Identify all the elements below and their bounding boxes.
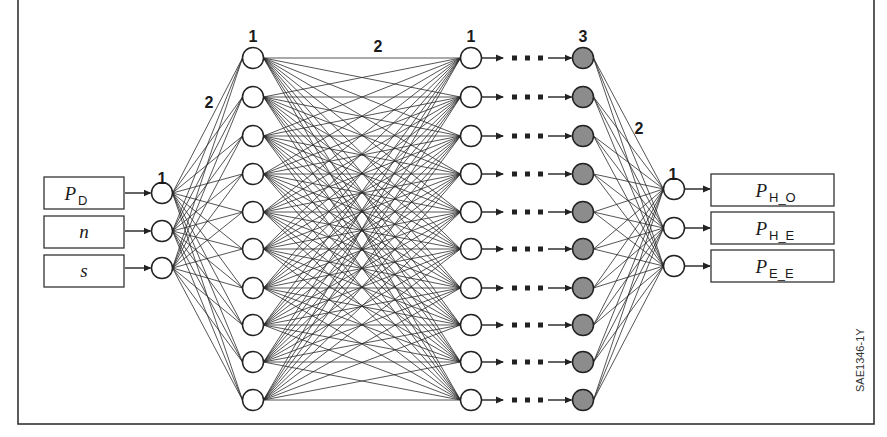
svg-text:P: P [754, 218, 767, 239]
ellipsis-dot [525, 56, 530, 61]
output-box-pee: P E_E [711, 250, 834, 282]
edge [173, 174, 243, 268]
ellipsis-dot [538, 134, 543, 139]
ellipsis-dot [538, 95, 543, 100]
hidden2-node [461, 126, 482, 147]
hidden2-node [461, 87, 482, 108]
hiddenlast-node [573, 87, 594, 108]
input-layer-label: 1 [158, 170, 167, 187]
connection-edges [173, 58, 664, 400]
ellipsis-dot [512, 56, 517, 61]
svg-text:E_E: E_E [769, 266, 794, 281]
hidden2-node [461, 202, 482, 223]
ellipsis-dot [525, 210, 530, 215]
hiddenlast-node [573, 48, 594, 69]
hidden2-layer-label: 1 [467, 28, 476, 45]
edge [594, 97, 664, 189]
output-layer-label: 1 [669, 166, 678, 183]
hiddenlast-node [573, 315, 594, 336]
ellipsis-dot [538, 210, 543, 215]
ellipsis-dot [538, 398, 543, 403]
svg-text:s: s [80, 260, 87, 281]
svg-text:P: P [63, 183, 76, 204]
ellipsis-dot [538, 360, 543, 365]
hiddenlast-node [573, 164, 594, 185]
output-node [664, 256, 685, 277]
ellipsis-dot [525, 398, 530, 403]
hiddenlast-node [573, 126, 594, 147]
svg-text:P: P [754, 180, 767, 201]
ellipsis-dot [512, 323, 517, 328]
edge [173, 249, 243, 268]
neural-network-diagram: P D n s P H_O P H_E P E_E 1 1 1 3 1 2 2 … [0, 0, 887, 437]
edge [173, 268, 243, 362]
hidden1-node [243, 48, 264, 69]
ellipsis-dot [538, 286, 543, 291]
hidden2-node [461, 278, 482, 299]
output-node [664, 218, 685, 239]
ellipsis-dot [512, 95, 517, 100]
ellipsis-dot [512, 286, 517, 291]
edge [594, 228, 664, 400]
edge [594, 189, 664, 288]
ellipsis-dot [525, 286, 530, 291]
edge [594, 189, 664, 325]
edge [173, 268, 243, 400]
hidden1-node [243, 126, 264, 147]
hidden2-node [461, 352, 482, 373]
input-hidden1-conn-label: 2 [205, 94, 214, 111]
edge [594, 58, 664, 189]
edge [173, 58, 243, 268]
output-box-pho: P H_O [711, 174, 834, 206]
hidden2-node [461, 48, 482, 69]
input-box-s: s [44, 255, 124, 287]
ellipsis-dot [525, 172, 530, 177]
edge [594, 266, 664, 400]
hidden1-hidden2-conn-label: 2 [374, 38, 383, 55]
hidden1-node [243, 239, 264, 260]
hiddenlast-node [573, 390, 594, 411]
svg-text:n: n [79, 221, 89, 242]
ellipsis-dot [512, 134, 517, 139]
hiddenlast-node [573, 352, 594, 373]
ellipsis-dot [525, 95, 530, 100]
svg-text:H_O: H_O [769, 190, 796, 205]
svg-text:H_E: H_E [769, 228, 795, 243]
edge [173, 58, 243, 193]
hidden1-node [243, 202, 264, 223]
edge [173, 268, 243, 288]
hiddenlast-node [573, 202, 594, 223]
hidden1-node [243, 390, 264, 411]
hiddenlast-node [573, 278, 594, 299]
hidden1-node [243, 352, 264, 373]
nodes [152, 48, 685, 411]
ellipsis-dot [525, 134, 530, 139]
hiddenlast-output-conn-label: 2 [635, 120, 644, 137]
ellipsis-dot [525, 360, 530, 365]
hidden2-node [461, 315, 482, 336]
hidden2-node [461, 390, 482, 411]
hidden1-layer-label: 1 [249, 28, 258, 45]
figure-id-label: SAE1346-1Y [854, 328, 866, 392]
ellipsis-dot [512, 172, 517, 177]
ellipsis-dot [512, 360, 517, 365]
output-box-phe: P H_E [711, 212, 834, 244]
ellipsis-dot [538, 323, 543, 328]
hidden2-node [461, 164, 482, 185]
ellipsis-dot [538, 247, 543, 252]
input-node [152, 221, 173, 242]
svg-text:P: P [754, 256, 767, 277]
hidden1-node [243, 164, 264, 185]
hidden1-node [243, 87, 264, 108]
ellipsis-dot [512, 210, 517, 215]
input-node [152, 258, 173, 279]
ellipsis-dot [512, 398, 517, 403]
ellipsis-dot [538, 56, 543, 61]
hiddenlast-layer-label: 3 [579, 28, 588, 45]
ellipsis-dot [512, 247, 517, 252]
ellipsis-dot [525, 247, 530, 252]
svg-text:D: D [78, 193, 87, 208]
input-box-n: n [44, 216, 124, 248]
hidden2-node [461, 239, 482, 260]
hiddenlast-node [573, 239, 594, 260]
